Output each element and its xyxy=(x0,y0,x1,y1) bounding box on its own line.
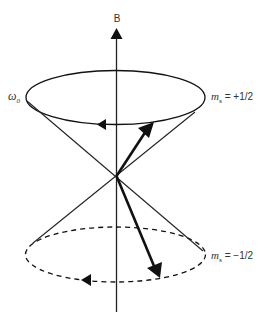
upper-precession-ellipse xyxy=(26,71,205,125)
cone-lines xyxy=(27,101,203,251)
frequency-label: ω0 xyxy=(8,89,20,105)
spin-precession-diagram: B ω0 ms = +1/2 ms = −1/2 xyxy=(0,0,275,322)
axis-arrowhead-icon xyxy=(111,28,123,39)
lower-precession-ellipse xyxy=(26,227,206,282)
axis-label-b: B xyxy=(114,13,121,24)
lower-rotation-arrow-icon xyxy=(81,274,91,286)
spin-down-vector xyxy=(117,176,163,278)
upper-rotation-arrow-icon xyxy=(97,119,106,130)
spin-down-state-label: ms = −1/2 xyxy=(211,249,254,263)
spin-up-state-label: ms = +1/2 xyxy=(211,90,254,104)
spin-up-arrowhead-icon xyxy=(138,122,154,138)
